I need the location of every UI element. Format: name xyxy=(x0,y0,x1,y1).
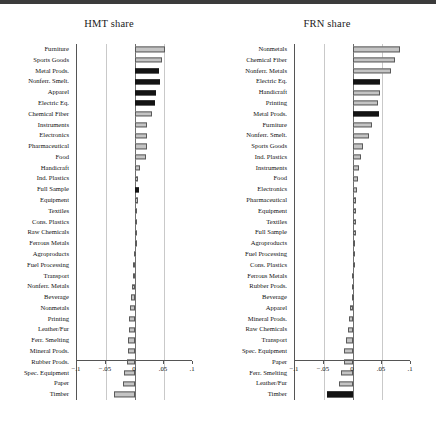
bar-row xyxy=(77,281,192,292)
category-label: Electric Eq. xyxy=(218,76,290,87)
bar xyxy=(353,187,357,192)
bar-row xyxy=(295,335,410,346)
category-label: Metal Prods. xyxy=(218,109,290,120)
bar xyxy=(353,144,363,149)
axis-tick xyxy=(192,361,193,364)
bar xyxy=(353,209,356,214)
bar xyxy=(352,295,354,300)
category-label: Pharmaceutical xyxy=(218,195,290,206)
panel-title-hmt: HMT share xyxy=(0,18,218,29)
category-label: Ind. Plastics xyxy=(218,152,290,163)
category-label: Ind. Plastics xyxy=(0,173,72,184)
bar xyxy=(135,122,147,127)
bar-row xyxy=(295,314,410,325)
category-label: Electric Eq. xyxy=(0,98,72,109)
bar xyxy=(339,381,354,386)
category-label: Spec. Equipment xyxy=(0,367,72,378)
panel-frn-share: FRN share NonmetalsChemical FiberNonferr… xyxy=(218,4,436,443)
bar-row xyxy=(295,281,410,292)
axis-tick xyxy=(134,361,135,364)
bar xyxy=(350,306,353,311)
bar xyxy=(135,209,137,214)
category-label: Equipment xyxy=(218,206,290,217)
axis-tick-label: −.05 xyxy=(99,365,111,372)
bar xyxy=(135,90,156,95)
bar-row xyxy=(295,227,410,238)
bar xyxy=(135,241,137,246)
axis-tick xyxy=(163,361,164,364)
category-labels-hmt: FurnitureSports GoodsMetal Prods.Nonferr… xyxy=(0,44,72,400)
bar-row xyxy=(77,346,192,357)
category-label: Paper xyxy=(218,357,290,368)
category-label: Rubber Prods. xyxy=(218,281,290,292)
chart-panels: HMT share FurnitureSports GoodsMetal Pro… xyxy=(0,4,436,443)
plot-area-hmt: FurnitureSports GoodsMetal Prods.Nonferr… xyxy=(0,44,218,404)
category-label: Beverage xyxy=(0,292,72,303)
category-label: Agroproducts xyxy=(0,249,72,260)
category-label: Beverage xyxy=(218,292,290,303)
category-label: Apparel xyxy=(0,87,72,98)
bar xyxy=(133,273,135,278)
category-label: Equipment xyxy=(0,195,72,206)
bar-row xyxy=(295,66,410,77)
bar xyxy=(135,111,152,116)
bar xyxy=(353,111,379,116)
bar-row xyxy=(77,270,192,281)
category-label: Rubber Prods. xyxy=(0,357,72,368)
bar-row xyxy=(77,55,192,66)
x-axis-ticks-hmt: −.1−.050.05.1 xyxy=(76,361,192,373)
bar-row xyxy=(77,152,192,163)
bar xyxy=(132,284,135,289)
axis-tick xyxy=(294,361,295,364)
bar-row xyxy=(77,335,192,346)
bar xyxy=(348,327,353,332)
bar-row xyxy=(77,227,192,238)
panel-title-frn: FRN share xyxy=(218,18,436,29)
bar xyxy=(353,252,355,257)
bar xyxy=(135,155,146,160)
axis-tick xyxy=(105,361,106,364)
category-label: Fuel Processing xyxy=(0,260,72,271)
bar xyxy=(128,338,135,343)
bar-row xyxy=(295,119,410,130)
bar xyxy=(353,165,359,170)
category-label: Nonferr. Smelt. xyxy=(218,130,290,141)
bar xyxy=(135,101,155,106)
axis-tick-label: .05 xyxy=(159,365,168,372)
category-label: Cons. Plastics xyxy=(0,217,72,228)
category-label: Furniture xyxy=(0,44,72,55)
bar-row xyxy=(77,206,192,217)
category-label: Apparel xyxy=(218,303,290,314)
axis-tick xyxy=(410,361,411,364)
bar-row xyxy=(295,141,410,152)
bar xyxy=(135,133,147,138)
bar xyxy=(129,327,135,332)
category-label: Chemical Fiber xyxy=(0,109,72,120)
bar xyxy=(353,219,356,224)
axis-tick-label: .1 xyxy=(189,365,194,372)
axis-tick-label: −.1 xyxy=(72,365,81,372)
bar xyxy=(353,176,358,181)
category-label: Spec. Equipment xyxy=(218,346,290,357)
bar-row xyxy=(295,389,410,400)
bar-row xyxy=(295,324,410,335)
bar-row xyxy=(295,184,410,195)
category-label: Printing xyxy=(218,98,290,109)
bar xyxy=(349,316,353,321)
bar-row xyxy=(295,270,410,281)
category-label: Timber xyxy=(218,389,290,400)
category-label: Food xyxy=(0,152,72,163)
category-label: Leather/Fur xyxy=(218,378,290,389)
bar-row xyxy=(77,119,192,130)
bar xyxy=(353,90,380,95)
bar xyxy=(327,392,353,397)
category-label: Handicraft xyxy=(0,163,72,174)
bar-row xyxy=(295,346,410,357)
bar xyxy=(123,381,135,386)
bar xyxy=(352,273,354,278)
bar-row xyxy=(295,173,410,184)
bar xyxy=(344,349,353,354)
bar xyxy=(353,133,369,138)
axis-tick xyxy=(323,361,324,364)
category-label: Paper xyxy=(0,378,72,389)
